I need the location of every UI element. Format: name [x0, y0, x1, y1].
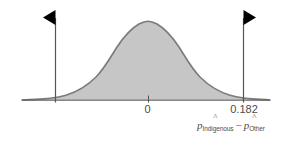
minus-operator: − — [233, 119, 243, 131]
hat-accent-right: ^ — [244, 113, 265, 122]
normal-distribution-figure: 0 0.182 ^pIndigenous−^pOther — [0, 0, 292, 148]
subscript-indigenous: Indigenous — [203, 125, 234, 132]
left-flag-marker-icon — [43, 10, 56, 25]
right-flag-marker-icon — [244, 10, 257, 25]
x-axis-label: ^pIndigenous−^pOther — [178, 120, 284, 133]
subscript-other: Other — [249, 125, 265, 132]
p-hat-indigenous: ^pIndigenous — [197, 120, 233, 133]
normal-curve-area — [22, 21, 270, 100]
p-hat-other: ^pOther — [244, 120, 265, 133]
hat-accent-left: ^ — [197, 113, 233, 122]
